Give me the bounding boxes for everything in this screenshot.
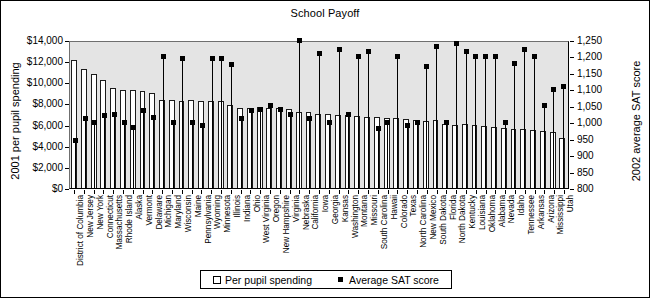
sat-score-marker	[561, 84, 566, 89]
x-tick-mark	[270, 190, 271, 194]
chart-category	[451, 42, 461, 188]
y-right-tick-mark	[570, 156, 574, 157]
sat-score-marker	[151, 115, 156, 120]
y-right-tick-label: 1,000	[577, 118, 602, 128]
plot-area	[69, 41, 569, 189]
y-right-tick-label: 1,150	[577, 69, 602, 79]
sat-stem	[378, 129, 379, 188]
x-tick-label: North Dakota	[459, 195, 467, 243]
x-tick-mark	[319, 190, 320, 194]
sat-stem	[456, 43, 457, 188]
sat-score-marker	[473, 54, 478, 59]
x-tick-mark	[241, 190, 242, 194]
sat-stem	[290, 114, 291, 188]
y-left-tick-mark	[65, 189, 69, 190]
sat-stem	[163, 56, 164, 188]
chart-category	[402, 42, 412, 188]
sat-score-marker	[464, 49, 469, 54]
sat-stem	[251, 111, 252, 188]
sat-score-marker	[376, 126, 381, 131]
x-tick-label: Louisiana	[479, 195, 487, 230]
x-tick-label: Virginia	[293, 195, 301, 222]
x-tick-label: North Carolina	[420, 195, 428, 248]
sat-score-marker	[171, 120, 176, 125]
sat-stem	[153, 117, 154, 188]
x-tick-mark	[544, 190, 545, 194]
x-tick-mark	[505, 190, 506, 194]
x-tick-mark	[143, 190, 144, 194]
chart-category	[490, 42, 500, 188]
x-tick-label: Kansas	[342, 195, 350, 222]
x-tick-label: Tennessee	[528, 195, 536, 235]
sat-stem	[329, 122, 330, 188]
chart-category	[197, 42, 207, 188]
x-tick-mark	[407, 190, 408, 194]
y-left-tick-label: $14,000	[27, 36, 63, 46]
x-tick-label: South Carolina	[381, 195, 389, 249]
sat-score-marker	[542, 103, 547, 108]
chart-category	[324, 42, 334, 188]
y-right-tick-mark	[570, 123, 574, 124]
sat-score-marker	[219, 56, 224, 61]
chart-category	[470, 42, 480, 188]
chart-category	[441, 42, 451, 188]
chart-category	[265, 42, 275, 188]
sat-stem	[505, 122, 506, 188]
chart-category	[295, 42, 305, 188]
x-tick-mark	[260, 190, 261, 194]
chart-category	[363, 42, 373, 188]
sat-stem	[133, 127, 134, 188]
y-left-tick-label: $4,000	[32, 142, 63, 152]
y-left-tick-label: $6,000	[32, 121, 63, 131]
x-tick-label: New Hampshire	[283, 195, 291, 253]
x-tick-mark	[74, 190, 75, 194]
sat-stem	[534, 56, 535, 188]
sat-score-marker	[454, 41, 459, 46]
x-tick-mark	[378, 190, 379, 194]
sat-score-marker	[210, 56, 215, 61]
point-swatch-icon	[338, 277, 343, 282]
x-tick-mark	[280, 190, 281, 194]
chart-category	[109, 42, 119, 188]
x-tick-mark	[476, 190, 477, 194]
y-right-tick-mark	[570, 173, 574, 174]
chart-category	[246, 42, 256, 188]
sat-score-marker	[83, 116, 88, 121]
y-right-tick-label: 850	[577, 168, 594, 178]
sat-stem	[221, 58, 222, 188]
x-tick-label: New Mexico	[430, 195, 438, 240]
sat-stem	[358, 56, 359, 188]
x-tick-label: New York	[97, 195, 105, 230]
sat-score-marker	[161, 54, 166, 59]
sat-stem	[85, 119, 86, 188]
sat-score-marker	[483, 54, 488, 59]
chart-category	[70, 42, 80, 188]
sat-score-marker	[337, 47, 342, 52]
x-tick-mark	[368, 190, 369, 194]
sat-stem	[241, 119, 242, 188]
sat-stem	[407, 126, 408, 189]
sat-stem	[173, 122, 174, 188]
y-right-tick-label: 1,050	[577, 102, 602, 112]
x-tick-mark	[348, 190, 349, 194]
chart-category	[138, 42, 148, 188]
sat-score-marker	[385, 120, 390, 125]
chart-category	[549, 42, 559, 188]
y-right-tick-mark	[570, 90, 574, 91]
x-tick-mark	[564, 190, 565, 194]
sat-score-marker	[522, 47, 527, 52]
chart-category	[275, 42, 285, 188]
x-tick-label: Oklahoma	[489, 195, 497, 232]
sat-score-marker	[405, 123, 410, 128]
sat-stem	[417, 122, 418, 188]
sat-score-marker	[503, 120, 508, 125]
chart-category	[99, 42, 109, 188]
sat-score-marker	[532, 54, 537, 59]
chart-category	[177, 42, 187, 188]
x-tick-label: Vermont	[146, 195, 154, 226]
y-right-tick-mark	[570, 57, 574, 58]
sat-score-marker	[317, 51, 322, 56]
bar-series-container	[70, 42, 568, 188]
x-tick-label: Texas	[410, 195, 418, 216]
x-tick-mark	[339, 190, 340, 194]
